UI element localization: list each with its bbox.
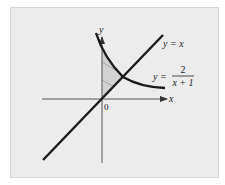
origin-label: 0 (104, 102, 109, 112)
curve-label-numerator: 2 (181, 64, 186, 75)
line-label: y = x (162, 38, 184, 49)
x-axis-label: x (168, 93, 174, 104)
graph: y x 0 y = x y = 2 x + 1 (0, 0, 225, 185)
y-axis-label: y (98, 24, 104, 35)
curve-label-prefix: y = (152, 71, 167, 82)
curve-label-denominator: x + 1 (171, 77, 193, 88)
